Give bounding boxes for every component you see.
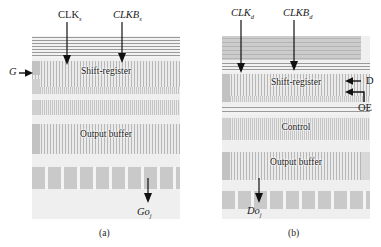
label-clkb-s-subscript: s xyxy=(139,15,142,22)
right-column-top-b xyxy=(361,36,370,60)
label-oe: OE xyxy=(358,102,372,113)
label-clkb-s-text: CLKB xyxy=(113,9,139,20)
label-clkb-d-subscript: d xyxy=(309,13,312,20)
shift-register-array-lower-a xyxy=(32,87,180,94)
arrow-d xyxy=(345,76,361,86)
label-clkb-d-text: CLKB xyxy=(283,7,309,18)
label-do-j-subscript: j xyxy=(260,211,262,218)
caption-a: (a) xyxy=(99,228,110,238)
bus-lines-oe-b xyxy=(222,106,370,115)
label-do-j-text: Do xyxy=(247,205,260,216)
label-go-j-subscript: j xyxy=(150,212,152,219)
arrow-clkb-s xyxy=(115,22,129,64)
arrow-do-j xyxy=(252,178,266,204)
secondary-array-a xyxy=(32,100,180,115)
block-label-control-b: Control xyxy=(222,122,370,133)
label-g: G xyxy=(9,66,17,77)
label-clk-s-text: CLK xyxy=(58,9,79,20)
block-label-output-buffer-a: Output buffer xyxy=(32,129,180,140)
arrow-clk-d xyxy=(234,20,248,74)
figure-chip-layout: Shift-register Output buffer CLKs CLKBs … xyxy=(0,0,381,247)
label-d: D xyxy=(366,75,374,86)
label-clk-d-text: CLK xyxy=(231,7,251,18)
bond-pad-row-a xyxy=(32,167,180,189)
power-rail-lower-a xyxy=(32,79,40,94)
block-label-shift-register-a: Shift-register xyxy=(32,66,180,77)
caption-b: (b) xyxy=(288,228,299,238)
block-label-output-buffer-b: Output buffer xyxy=(222,157,370,168)
power-rail-mid-a xyxy=(32,100,40,115)
bus-lines-top-a xyxy=(32,36,180,58)
panel-a-chip-layout: Shift-register Output buffer xyxy=(32,36,180,219)
label-go-j: Goj xyxy=(137,206,152,221)
arrow-clk-s xyxy=(60,22,74,66)
label-do-j: Doj xyxy=(247,205,262,220)
bond-pad-row-b xyxy=(222,191,370,209)
label-clk-s-subscript: s xyxy=(79,15,82,22)
arrow-g xyxy=(19,68,33,78)
label-go-j-text: Go xyxy=(137,206,150,217)
arrow-clkb-d xyxy=(287,20,301,72)
label-clk-d-subscript: d xyxy=(251,13,254,20)
arrow-oe xyxy=(345,87,367,103)
arrow-go-j xyxy=(141,178,155,204)
